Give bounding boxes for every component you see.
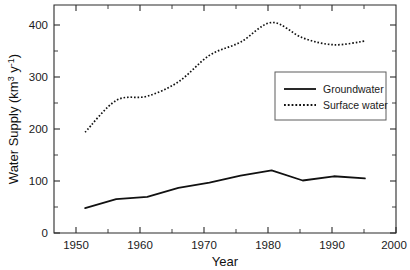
y-axis-title-tail: ) — [6, 54, 21, 58]
legend-label-surface-water: Surface water — [323, 99, 388, 111]
x-tick-label-1970: 1970 — [191, 239, 217, 251]
x-axis-title: Year — [212, 254, 239, 269]
y-tick-label-0: 0 — [42, 227, 48, 239]
svg-text:Water Supply (km3 y-1): Water Supply (km3 y-1) — [6, 54, 21, 184]
series-line-groundwater — [85, 170, 365, 208]
line-chart: 0 100 200 300 400 1950 1960 1970 1980 19… — [0, 0, 410, 270]
y-tick-label-400: 400 — [29, 19, 48, 31]
chart-figure: 0 100 200 300 400 1950 1960 1970 1980 19… — [0, 0, 410, 270]
y-axis-title-sup-neg1: -1 — [6, 58, 16, 66]
x-tick-label-1950: 1950 — [63, 239, 89, 251]
y-axis-title-main: Water Supply (km — [6, 81, 21, 184]
x-tick-label-2000: 2000 — [381, 239, 407, 251]
legend-label-groundwater: Groundwater — [323, 83, 384, 95]
x-axis-tick-labels: 1950 1960 1970 1980 1990 2000 — [63, 239, 407, 251]
chart-legend[interactable]: Groundwater Surface water — [275, 72, 388, 120]
y-axis-tick-labels: 0 100 200 300 400 — [29, 19, 48, 239]
y-tick-label-100: 100 — [29, 175, 48, 187]
y-axis-title-mid: y — [6, 66, 21, 77]
x-tick-label-1980: 1980 — [255, 239, 281, 251]
x-tick-label-1960: 1960 — [127, 239, 153, 251]
legend-box — [275, 72, 386, 120]
y-tick-label-300: 300 — [29, 71, 48, 83]
y-tick-label-200: 200 — [29, 123, 48, 135]
x-tick-label-1990: 1990 — [319, 239, 345, 251]
y-axis-title: Water Supply (km3 y-1) — [6, 54, 21, 184]
